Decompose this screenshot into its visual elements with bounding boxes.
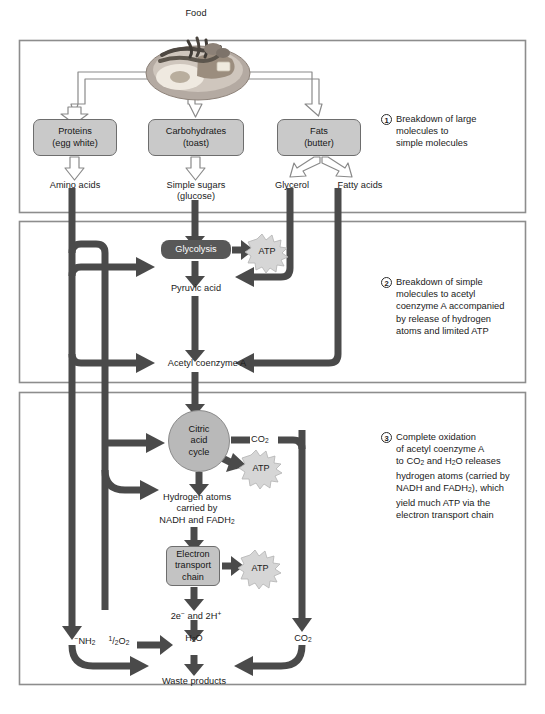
food-plate-illustration <box>140 27 260 103</box>
node-fatty-acids: Fatty acids <box>338 180 383 191</box>
arrowhead-branch-to-citric <box>146 433 165 453</box>
label-electrons-protons: 2e− and 2H+ <box>171 608 222 622</box>
label-h2o: H2O <box>185 633 203 646</box>
label-co2-lower: CO2 <box>294 633 312 646</box>
node-citric-acid-cycle-label: Citric acid cycle <box>189 424 210 459</box>
label-half-o2: 1/2O2 <box>108 633 129 648</box>
node-glycolysis: Glycolysis <box>161 240 231 259</box>
stage-1-caption: Breakdown of large molecules to simple m… <box>396 113 538 150</box>
node-glycolysis-label: Glycolysis <box>175 245 216 254</box>
node-atp-citric-label: ATP <box>253 463 270 473</box>
node-fats: Fats (butter) <box>277 119 361 156</box>
metabolism-flow-diagram <box>0 0 545 714</box>
stage-2-caption: Breakdown of simple molecules to acetyl … <box>396 276 542 337</box>
food-label: Food <box>185 8 206 19</box>
arrowhead-nh2-to-waste <box>130 656 149 676</box>
node-atp-glycolysis: ATP <box>248 240 286 262</box>
line-branch-to-hydrogen <box>105 470 142 490</box>
node-carbohydrates: Carbohydrates (toast) <box>148 119 244 156</box>
node-atp-citric: ATP <box>242 457 280 479</box>
node-acetyl-coenzyme-a: Acetyl coenzyme A <box>168 358 246 369</box>
node-citric-acid-cycle: Citric acid cycle <box>168 410 230 472</box>
node-electron-transport-chain: Electron transport chain <box>166 546 220 586</box>
node-glycerol: Glycerol <box>275 180 309 191</box>
arrowhead-glycerol-to-pyruvic <box>235 267 254 287</box>
arrowhead-branch-to-hydrogen <box>140 480 159 500</box>
line-co2-to-waste <box>251 645 302 666</box>
arrow-carbohydrates-to-sugars <box>186 157 205 180</box>
label-nh2: −NH2 <box>74 633 95 648</box>
stage-3-badge: 3 <box>381 432 392 443</box>
figure-canvas: Food Proteins (egg white) Carbohydrates … <box>0 0 545 714</box>
node-proteins-label: Proteins (egg white) <box>52 126 97 149</box>
food-photo <box>140 27 260 103</box>
box-to-product-arrows <box>65 157 352 180</box>
arrowhead-right-vertical-co2 <box>292 618 312 632</box>
stage-2-badge: 2 <box>381 277 392 288</box>
node-fats-label: Fats (butter) <box>304 126 334 149</box>
arrowhead-branch-to-acetylcoa <box>136 353 155 373</box>
stage-3-caption: Complete oxidationof acetyl coenzyme Ato… <box>396 431 545 521</box>
node-waste-products: Waste products <box>162 676 226 687</box>
node-amino-acids: Amino acids <box>50 180 101 191</box>
node-electron-transport-chain-label: Electron transport chain <box>175 549 211 583</box>
node-atp-etc-label: ATP <box>252 563 269 573</box>
atp-starbursts <box>238 234 288 589</box>
node-hydrogen-atoms: Hydrogen atomscarried byNADH and FADH2 <box>159 492 234 528</box>
arrowhead-branch-to-pyruvic <box>136 257 155 277</box>
arrow-fats-to-fatty-acids <box>322 157 352 177</box>
label-co2-citric: CO2 <box>251 434 269 447</box>
stage-1-badge: 1 <box>381 114 392 125</box>
arrowhead-water-to-waste <box>184 664 204 676</box>
node-atp-etc: ATP <box>241 557 279 579</box>
line-amino-to-branch-top <box>72 244 105 253</box>
node-carbohydrates-label: Carbohydrates (toast) <box>166 126 226 149</box>
node-simple-sugars: Simple sugars (glucose) <box>167 180 226 203</box>
arrow-proteins-to-amino-acids <box>65 157 84 180</box>
node-pyruvic-acid: Pyruvic acid <box>171 283 221 294</box>
arrowhead-o2-to-water <box>160 635 173 655</box>
node-atp-glycolysis-label: ATP <box>259 246 276 256</box>
arrow-fats-to-glycerol <box>290 157 320 177</box>
arrowhead-co2-to-waste <box>234 656 253 676</box>
line-co2-to-right-vertical <box>278 440 302 449</box>
node-proteins: Proteins (egg white) <box>33 119 117 156</box>
